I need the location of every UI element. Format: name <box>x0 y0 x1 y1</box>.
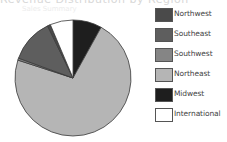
legend-label: Southwest <box>174 48 213 60</box>
legend-swatch-northwest <box>155 8 173 22</box>
legend-swatch-international <box>155 108 173 122</box>
legend-label: International <box>174 108 221 120</box>
legend-swatch-southeast <box>155 28 173 42</box>
legend-swatch-midwest <box>155 88 173 102</box>
legend-label: Northwest <box>174 8 212 20</box>
pie-chart <box>0 0 140 142</box>
legend-label: Midwest <box>174 88 204 100</box>
legend-swatch-southwest <box>155 48 173 62</box>
legend-label: Southeast <box>174 28 211 40</box>
legend-swatch-northeast <box>155 68 173 82</box>
legend-label: Northeast <box>174 68 210 80</box>
